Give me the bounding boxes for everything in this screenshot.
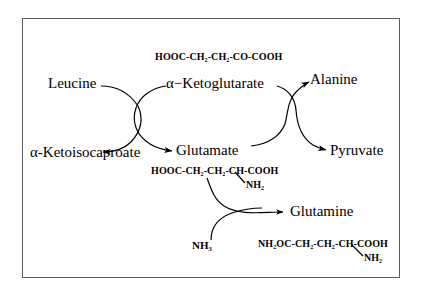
diagram-canvas: HOOC-CH₂-CH₂-CO-COOH Leucine α−Ketogluta… [0,0,422,296]
node-ketoglutarate: α−Ketoglutarate [166,76,264,91]
node-glutamine: Glutamine [290,204,353,219]
node-ketoisocaproate: α-Ketoisocaproate [30,145,140,160]
glutamine-formula-amine: NH₂ [364,253,382,263]
glutamate-formula-amine: NH₂ [246,180,264,190]
glutamate-formula: HOOC-CH₂-CH₂-CH-COOH [151,166,278,176]
ketoglutarate-formula: HOOC-CH₂-CH₂-CO-COOH [155,52,282,62]
node-alanine: Alanine [310,72,357,87]
node-glutamate: Glutamate [176,143,238,158]
node-leucine: Leucine [48,76,96,91]
reactant-ammonia: NH₃ [192,240,212,251]
node-pyruvate: Pyruvate [330,143,383,158]
glutamine-formula: NH₂OC-CH₂-CH₂-CH-COOH [258,239,388,249]
